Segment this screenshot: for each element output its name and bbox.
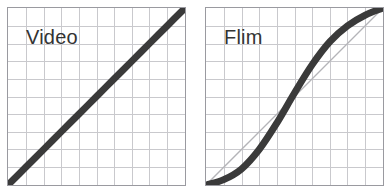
chart-panel-video: Video	[7, 7, 186, 186]
panel-label-video: Video	[26, 26, 78, 48]
figure-root: Video Flim	[0, 0, 385, 196]
panel-label-flim: Flim	[224, 26, 263, 48]
chart-panel-flim: Flim	[205, 7, 384, 186]
